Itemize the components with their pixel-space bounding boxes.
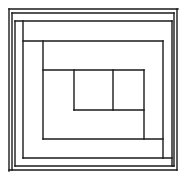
- log-cabin-diagram: [0, 0, 189, 179]
